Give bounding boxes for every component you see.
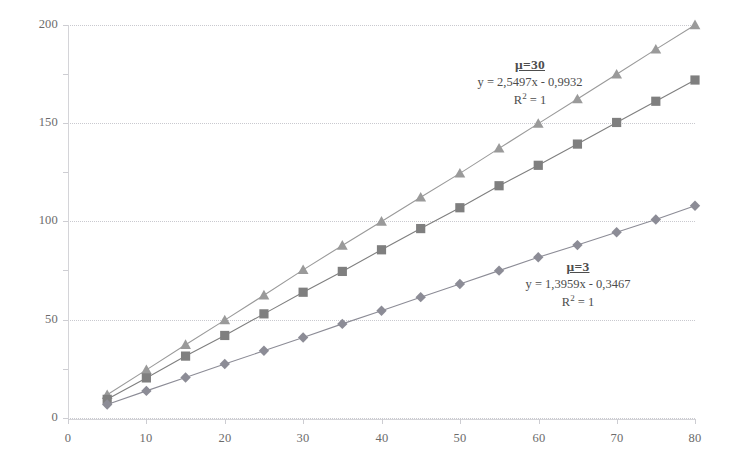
chart-canvas: 200 150 100 50 0 0 10 20 30 40 50 60 70 … (0, 0, 731, 470)
data-point-mu=3-15 (180, 372, 190, 382)
data-point-mu=30-25 (259, 290, 270, 300)
data-point-mu=3-upper-mid-35 (338, 267, 347, 276)
data-point-mu=3-20 (220, 359, 230, 369)
data-point-mu=3-75 (651, 214, 661, 224)
data-point-mu=3-upper-mid-10 (142, 373, 151, 382)
data-point-mu=3-upper-mid-70 (612, 118, 621, 127)
data-point-mu=3-upper-mid-50 (455, 203, 464, 212)
data-point-mu=3-70 (611, 227, 621, 237)
annotation-mu30-label: μ=30 (430, 57, 630, 74)
data-point-mu=3-80 (690, 201, 700, 211)
data-point-mu=3-upper-mid-55 (494, 181, 503, 190)
data-point-mu=3-upper-mid-30 (299, 288, 308, 297)
data-point-mu=3-45 (415, 292, 425, 302)
data-point-mu=3-50 (455, 279, 465, 289)
r2-prefix: R (562, 295, 570, 309)
annotation-mu3: μ=3 y = 1,3959x - 0,3467 R2 = 1 (478, 259, 678, 310)
data-point-mu=3-10 (141, 386, 151, 396)
data-point-mu=3-25 (259, 346, 269, 356)
data-point-mu=30-75 (650, 44, 661, 54)
data-point-mu=3-upper-mid-20 (220, 331, 229, 340)
data-point-mu=30-60 (533, 118, 544, 128)
data-point-mu=3-65 (572, 240, 582, 250)
data-point-mu=3-upper-mid-60 (534, 161, 543, 170)
series-line-mu=3-upper-mid (107, 80, 695, 399)
data-point-mu=30-15 (180, 339, 191, 349)
data-point-mu=30-10 (141, 364, 152, 374)
data-point-mu=3-upper-mid-25 (259, 309, 268, 318)
annotation-mu30: μ=30 y = 2,5497x - 0,9932 R2 = 1 (430, 57, 630, 108)
data-point-mu=3-upper-mid-80 (690, 75, 699, 84)
annotation-mu3-equation: y = 1,3959x - 0,3467 (478, 277, 678, 293)
data-point-mu=3-30 (298, 332, 308, 342)
data-point-mu=3-upper-mid-45 (416, 224, 425, 233)
data-point-mu=30-55 (494, 143, 505, 153)
annotation-mu3-r2: R2 = 1 (478, 293, 678, 311)
r2-prefix: R (514, 93, 522, 107)
data-point-mu=3-upper-mid-40 (377, 245, 386, 254)
data-point-mu=3-upper-mid-75 (651, 97, 660, 106)
data-point-mu=3-35 (337, 319, 347, 329)
data-point-mu=30-50 (454, 168, 465, 178)
data-point-mu=30-45 (415, 192, 426, 202)
r2-value: = 1 (575, 295, 595, 309)
data-point-mu=3-40 (376, 306, 386, 316)
annotation-mu3-label: μ=3 (478, 259, 678, 276)
data-point-mu=3-upper-mid-65 (573, 139, 582, 148)
data-point-mu=30-40 (376, 216, 387, 226)
annotation-mu30-r2: R2 = 1 (430, 91, 630, 109)
data-point-mu=30-35 (337, 240, 348, 250)
data-point-mu=30-80 (690, 20, 701, 30)
data-point-mu=30-20 (219, 315, 230, 325)
r2-value: = 1 (527, 93, 547, 107)
annotation-mu30-equation: y = 2,5497x - 0,9932 (430, 75, 630, 91)
data-point-mu=3-upper-mid-15 (181, 352, 190, 361)
series-mu=3-upper-mid (103, 75, 700, 404)
data-point-mu=30-30 (298, 264, 309, 274)
